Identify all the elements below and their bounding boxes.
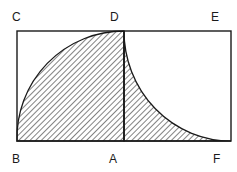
geometry-diagram: C D E B A F (0, 0, 237, 172)
label-a: A (109, 152, 117, 166)
shaded-concave-region (124, 31, 231, 141)
label-f: F (213, 152, 220, 166)
shaded-quarter-circle (17, 31, 124, 141)
label-b: B (12, 152, 20, 166)
label-e: E (211, 10, 219, 24)
label-c: C (12, 10, 21, 24)
label-d: D (110, 10, 119, 24)
